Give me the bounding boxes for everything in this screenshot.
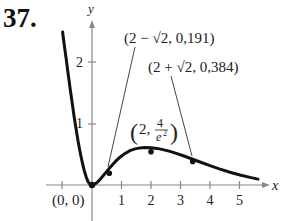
y-tick-labels: 1 2 [76, 55, 83, 131]
svg-text:2: 2 [76, 55, 83, 70]
y-axis-label: y [86, 1, 94, 16]
svg-text:4: 4 [157, 116, 163, 130]
svg-text:2: 2 [148, 193, 155, 208]
svg-text:1: 1 [76, 116, 83, 131]
origin-label: (0, 0) [52, 192, 85, 209]
y-axis-arrow-icon [89, 20, 95, 28]
chart: 1 2 3 4 5 1 2 x y (0, 0) (2 − √2, 0,191)… [0, 0, 290, 221]
svg-text:): ) [170, 119, 178, 145]
svg-text:(: ( [130, 119, 138, 145]
inflection-1-label: (2 − √2, 0,191) [124, 30, 214, 47]
svg-text:2,: 2, [139, 121, 150, 137]
x-axis-arrow-icon [262, 182, 270, 188]
x-tick-labels: 1 2 3 4 5 [118, 193, 243, 208]
svg-text:5: 5 [236, 193, 243, 208]
svg-text:e: e [156, 130, 162, 144]
point-maximum [148, 149, 154, 155]
point-inflection-2 [190, 159, 196, 165]
svg-text:1: 1 [118, 193, 125, 208]
svg-text:3: 3 [177, 193, 184, 208]
x-axis-label: x [271, 178, 279, 193]
svg-text:4: 4 [207, 193, 214, 208]
svg-text:2: 2 [163, 129, 167, 138]
point-inflection-1 [107, 171, 113, 177]
maximum-label: ( 2, 4 e 2 ) [130, 116, 178, 145]
inflection-2-label: (2 + √2, 0,384) [148, 59, 238, 76]
point-origin [89, 182, 95, 188]
